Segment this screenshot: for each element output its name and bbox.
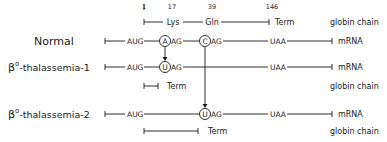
start-codon: AUG [127, 63, 144, 72]
term-label: Term [207, 127, 228, 136]
globin-chain-label: globin chain [330, 127, 379, 136]
mrna-label: mRNA [338, 110, 363, 119]
globin-chain-label: globin chain [330, 18, 379, 27]
start-codon: AUG [127, 110, 144, 119]
arrowhead-icon [163, 57, 168, 61]
codon39-mutation-base: U [202, 110, 208, 119]
codon17-rest: AG [171, 37, 182, 46]
row-name-normal: Normal [34, 35, 74, 48]
row-name-thalassemia-2: βo-thalassemia-2 [8, 107, 90, 121]
position-label: 17 [168, 3, 176, 11]
codon39-rest: AG [211, 37, 222, 46]
codon39-rest: AG [211, 110, 222, 119]
mrna-label: mRNA [338, 37, 363, 46]
stop-codon: UAA [270, 110, 287, 119]
position-label: 146 [266, 3, 278, 11]
term-label: Term [166, 82, 187, 91]
arrowhead-icon [203, 104, 208, 108]
row-name-thalassemia-1: βo-thalassemia-1 [8, 60, 90, 74]
globin-chain-label: globin chain [330, 82, 379, 91]
codon17-mutation-base: U [162, 63, 168, 72]
thalassemia-mutation-diagram: 1 17 39 146 Lys Gln Term globin chain No… [0, 0, 387, 142]
codon39-mutation-base: C [202, 37, 207, 46]
start-codon: AUG [127, 37, 144, 46]
stop-codon: UAA [270, 63, 287, 72]
amino-acid-lys: Lys [167, 18, 180, 27]
codon17-rest: AG [171, 63, 182, 72]
stop-codon: UAA [270, 37, 287, 46]
position-label: 1 [142, 3, 146, 11]
term-label: Term [274, 18, 295, 27]
mrna-label: mRNA [338, 63, 363, 72]
position-label: 39 [208, 3, 216, 11]
codon17-mutation-base: A [162, 37, 168, 46]
amino-acid-gln: Gln [205, 18, 219, 27]
